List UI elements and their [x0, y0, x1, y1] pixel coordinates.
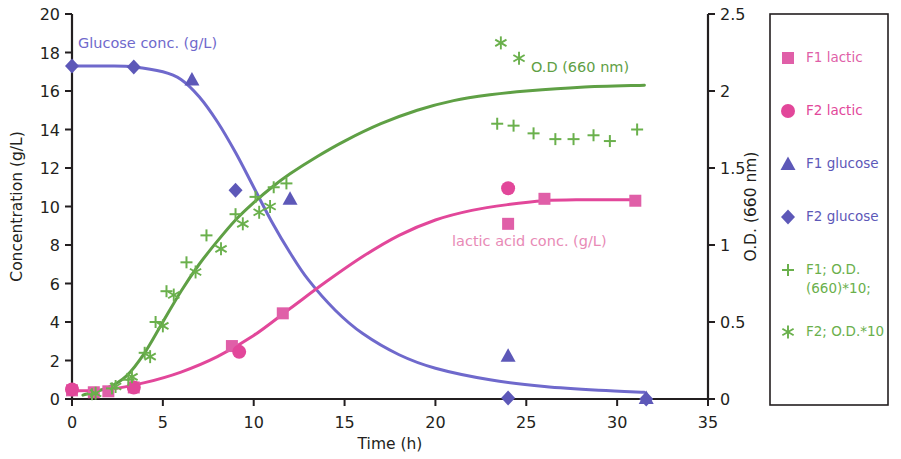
data-point: [639, 392, 653, 407]
data-point: [604, 135, 616, 147]
marker-square: [502, 218, 514, 230]
data-point: [538, 193, 550, 205]
data-point: [588, 129, 600, 141]
x-tick-label: 5: [158, 413, 168, 432]
data-point: [501, 348, 516, 362]
series-f2-lactic: [65, 181, 515, 396]
y2-tick-label: 2: [720, 82, 730, 101]
y-axis-title: Concentration (g/L): [8, 131, 26, 281]
marker-square: [277, 307, 289, 319]
marker-square: [629, 195, 641, 207]
data-point: [230, 208, 242, 220]
legend-label: F1 lactic: [806, 49, 863, 65]
data-point: [508, 120, 520, 132]
annotation-3: lactic acid conc. (g/L): [452, 233, 607, 249]
y-tick-label: 0: [50, 390, 60, 409]
marker-circle: [65, 382, 79, 396]
annotation-2: O.D (660 nm): [531, 59, 629, 75]
x-tick-label: 20: [425, 413, 445, 432]
legend-marker-circle: [781, 104, 795, 118]
y-tick-label: 10: [40, 198, 60, 217]
y2-tick-label: 0: [720, 390, 730, 409]
x-tick-label: 10: [244, 413, 264, 432]
data-point: [528, 127, 540, 139]
annotation-1: Glucose conc. (g/L): [78, 35, 217, 51]
marker-diamond: [501, 391, 515, 406]
data-point: [180, 256, 192, 268]
series-f1-o-d-660-10: [86, 118, 643, 400]
x-tick-label: 30: [607, 413, 627, 432]
y-tick-label: 4: [50, 313, 60, 332]
legend-marker-square: [782, 52, 794, 64]
marker-square: [782, 52, 794, 64]
y-tick-label: 16: [40, 82, 60, 101]
series-f2-o-d-10: [90, 36, 525, 399]
marker-circle: [501, 181, 515, 195]
data-point: [215, 242, 226, 255]
y2-axis-title: O.D. (660 nm): [742, 152, 760, 262]
data-point: [501, 391, 515, 406]
data-point: [513, 52, 524, 65]
x-axis-title: Time (h): [357, 435, 423, 453]
data-point: [237, 217, 248, 230]
marker-triangle: [184, 72, 199, 86]
marker-circle: [781, 104, 795, 118]
legend-label: F1 glucose: [806, 155, 879, 171]
y-tick-label: 20: [40, 5, 60, 24]
data-point: [232, 345, 246, 359]
data-point: [184, 72, 199, 86]
legend-label: F1; O.D.: [806, 261, 860, 277]
data-point: [283, 191, 298, 205]
x-tick-label: 0: [67, 413, 77, 432]
x-tick-label: 15: [334, 413, 354, 432]
series-f1-lactic: [66, 193, 641, 398]
marker-diamond: [229, 183, 243, 198]
marker-diamond: [65, 58, 79, 73]
x-tick-label: 35: [698, 413, 718, 432]
data-point: [127, 59, 141, 74]
legend-label-line2: (660)*10;: [806, 280, 871, 296]
y-tick-label: 2: [50, 352, 60, 371]
marker-triangle: [283, 191, 298, 205]
legend-label: F2; O.D.*10: [806, 323, 884, 339]
marker-square: [538, 193, 550, 205]
y2-tick-label: 2.5: [720, 5, 745, 24]
x-tick-label: 25: [516, 413, 536, 432]
y-tick-label: 18: [40, 44, 60, 63]
curve-glucose-conc-g-l: [72, 66, 644, 392]
curve-lactic-acid-conc-g-l: [72, 200, 639, 391]
data-point: [502, 218, 514, 230]
y-tick-label: 6: [50, 275, 60, 294]
chart-canvas: 0246810121416182000.511.522.505101520253…: [0, 0, 901, 459]
data-point: [160, 285, 172, 297]
legend-label: F2 lactic: [806, 102, 863, 118]
data-point: [491, 118, 503, 130]
data-point: [549, 133, 561, 145]
data-point: [229, 183, 243, 198]
data-point: [495, 36, 506, 49]
y-tick-label: 14: [40, 121, 60, 140]
y2-tick-label: 0.5: [720, 313, 745, 332]
y-tick-label: 8: [50, 236, 60, 255]
data-point: [277, 307, 289, 319]
y2-tick-label: 1: [720, 236, 730, 255]
data-point: [65, 58, 79, 73]
data-point: [200, 229, 212, 241]
data-point: [65, 382, 79, 396]
marker-circle: [232, 345, 246, 359]
marker-diamond: [639, 392, 653, 407]
legend-label: F2 glucose: [806, 208, 879, 224]
data-point: [568, 133, 580, 145]
data-point: [629, 195, 641, 207]
data-point: [631, 124, 643, 136]
y-tick-label: 12: [40, 159, 60, 178]
chart-figure: 0246810121416182000.511.522.505101520253…: [0, 0, 901, 459]
data-point: [501, 181, 515, 195]
marker-triangle: [501, 348, 516, 362]
marker-diamond: [127, 59, 141, 74]
